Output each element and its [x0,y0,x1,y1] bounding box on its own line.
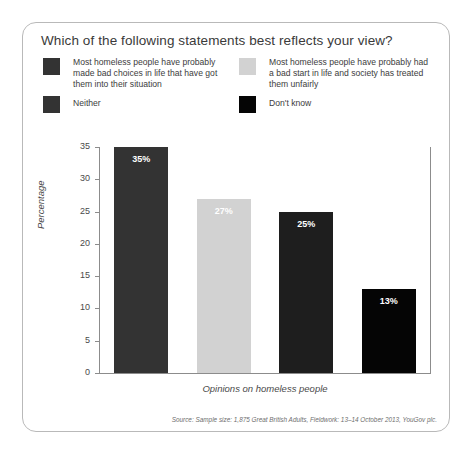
x-axis-title: Opinions on homeless people [99,383,431,394]
y-axis-tick-label: 30 [80,173,90,183]
legend-swatch-icon [239,58,256,75]
bar-value-label: 13% [362,296,416,306]
source-note: Source: Sample size: 1,875 Great British… [41,416,437,423]
legend-item[interactable]: Neither [41,95,237,117]
y-axis-tick-label: 0 [85,367,90,377]
y-axis-tick-label: 5 [85,335,90,345]
page-title: Which of the following statements best r… [41,33,393,48]
legend-swatch-icon [43,96,60,113]
y-axis-tick-label: 25 [80,206,90,216]
legend-item-label: Don't know [269,95,433,109]
legend-item-label: Neither [73,95,237,109]
chart-card: Which of the following statements best r… [22,22,450,432]
legend-item[interactable]: Most homeless people have probably had a… [237,57,433,91]
bar[interactable]: 13% [362,289,416,373]
bar-value-label: 35% [114,154,168,164]
legend-item-label: Most homeless people have probably made … [73,57,237,91]
y-axis-tick-label: 20 [80,238,90,248]
legend-swatch-icon [43,58,60,75]
legend-item[interactable]: Most homeless people have probably made … [41,57,237,91]
y-axis-tick-label: 35 [80,141,90,151]
bar[interactable]: 35% [114,147,168,373]
bar-value-label: 27% [197,206,251,216]
legend-column-left: Most homeless people have probably made … [41,57,237,121]
y-axis-tick-label: 15 [80,270,90,280]
legend-item[interactable]: Don't know [237,95,433,117]
y-axis-tick-label: 10 [80,302,90,312]
y-axis-tick-mark [95,373,100,374]
bar[interactable]: 25% [279,212,333,373]
bar-series: 35%27%25%13% [100,147,430,373]
legend-swatch-icon [239,96,256,113]
bar-value-label: 25% [279,219,333,229]
legend-column-right: Most homeless people have probably had a… [237,57,433,121]
legend-item-label: Most homeless people have probably had a… [269,57,433,91]
chart-plot-area: Percentage 05101520253035 35%27%25%13% O… [41,141,437,396]
bar[interactable]: 27% [197,199,251,373]
y-axis-title: Percentage [35,180,46,229]
plot-frame: 05101520253035 35%27%25%13% [99,147,431,374]
